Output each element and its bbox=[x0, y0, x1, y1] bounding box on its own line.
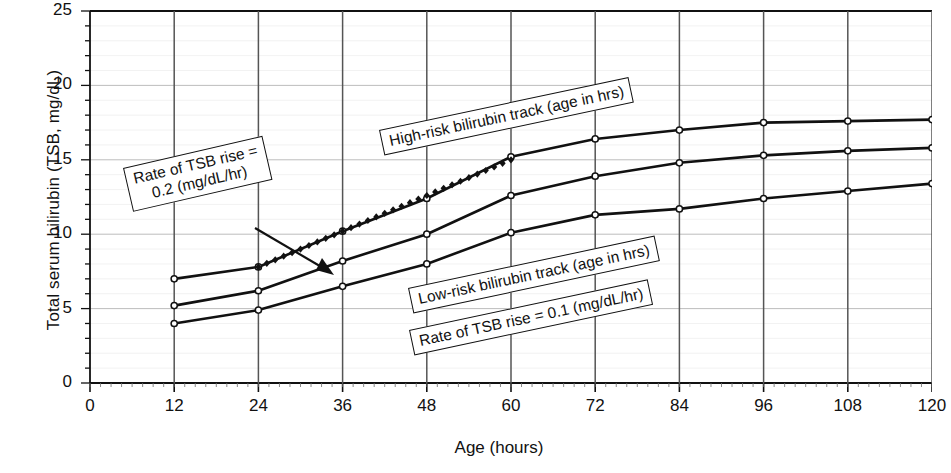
y-tick-label-15: 15 bbox=[32, 149, 72, 169]
x-tick-label-108: 108 bbox=[818, 396, 878, 416]
y-tick-label-20: 20 bbox=[32, 74, 72, 94]
x-tick-label-96: 96 bbox=[734, 396, 794, 416]
x-axis-title-text: Age (hours) bbox=[455, 438, 544, 458]
y-tick-label-0: 0 bbox=[32, 372, 72, 392]
x-tick-label-36: 36 bbox=[313, 396, 373, 416]
x-tick-label-48: 48 bbox=[397, 396, 457, 416]
y-tick-label-10: 10 bbox=[32, 223, 72, 243]
y-axis-title: Total serum bilirubin (TSB, mg/dL) bbox=[44, 0, 64, 400]
x-tick-label-72: 72 bbox=[565, 396, 625, 416]
x-tick-label-120: 120 bbox=[902, 396, 951, 416]
x-tick-label-0: 0 bbox=[60, 396, 120, 416]
x-tick-label-12: 12 bbox=[144, 396, 204, 416]
y-tick-label-25: 25 bbox=[32, 0, 72, 20]
x-axis-title: Age (hours) bbox=[0, 438, 932, 458]
x-tick-label-60: 60 bbox=[481, 396, 541, 416]
x-tick-label-24: 24 bbox=[228, 396, 288, 416]
y-tick-label-5: 5 bbox=[32, 298, 72, 318]
x-tick-label-84: 84 bbox=[649, 396, 709, 416]
